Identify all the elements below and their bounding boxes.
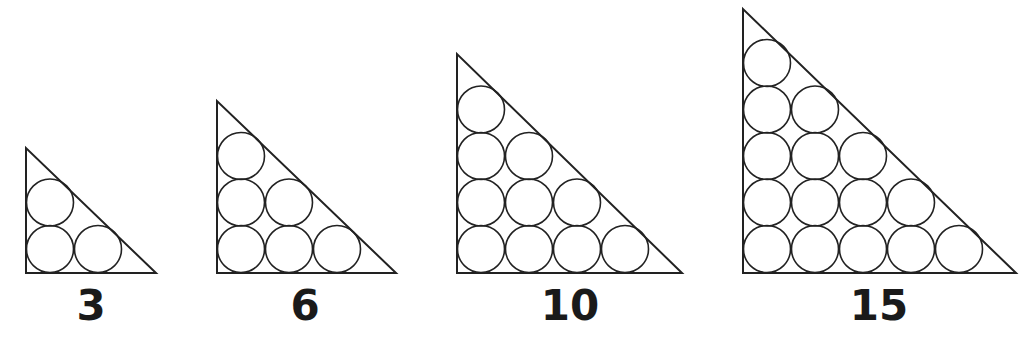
circle (27, 179, 74, 226)
circle (792, 226, 839, 273)
circle (218, 133, 265, 180)
circle (792, 133, 839, 180)
circle (792, 179, 839, 226)
triangle-15 (743, 9, 1016, 273)
triangle-3 (26, 148, 156, 273)
right-triangle-outline (26, 148, 156, 273)
circle (936, 226, 983, 273)
circle (266, 226, 313, 273)
triangle-label-15: 15 (850, 282, 908, 330)
circle (218, 226, 265, 273)
circle (506, 226, 553, 273)
circle (506, 179, 553, 226)
circle (744, 86, 791, 133)
circle (602, 226, 649, 273)
circle (314, 226, 361, 273)
right-triangle-outline (457, 54, 682, 273)
triangle-6 (217, 101, 396, 273)
triangle-label-3: 3 (76, 282, 105, 330)
circle (840, 133, 887, 180)
circle (218, 179, 265, 226)
triangle-label-6: 6 (290, 282, 319, 330)
triangle-label-10: 10 (541, 282, 599, 330)
circle (840, 179, 887, 226)
triangular-numbers-figure: 3 6 10 15 (0, 0, 1033, 345)
circle (506, 133, 553, 180)
circle (75, 226, 122, 273)
circle (458, 86, 505, 133)
circle (554, 179, 601, 226)
triangle-10 (457, 54, 682, 273)
circle (458, 179, 505, 226)
circle (744, 226, 791, 273)
circle (744, 40, 791, 87)
circle (840, 226, 887, 273)
circle (744, 179, 791, 226)
circle (888, 179, 935, 226)
circle (266, 179, 313, 226)
circle (554, 226, 601, 273)
circle (744, 133, 791, 180)
circle (792, 86, 839, 133)
circle (458, 133, 505, 180)
circle (888, 226, 935, 273)
circle (458, 226, 505, 273)
circle (27, 226, 74, 273)
